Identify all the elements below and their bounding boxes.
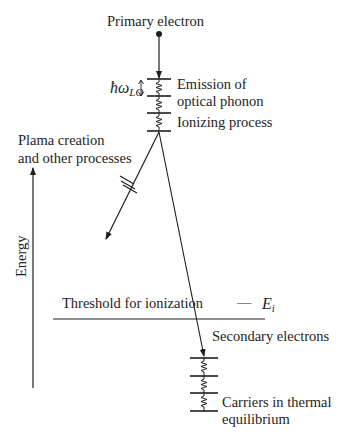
- energy-cascade-diagram: Primary electron ħωLO Emission of optica…: [0, 0, 352, 439]
- threshold-symbol-E: E: [261, 295, 272, 312]
- threshold-symbol: Ei: [261, 295, 275, 314]
- lower-zigzag-3: [201, 393, 207, 411]
- emission-label-line2: optical phonon: [177, 93, 264, 109]
- secondary-branch-arrow: [159, 132, 204, 356]
- threshold-symbol-subscript: i: [272, 302, 275, 314]
- phonon-zigzag-1: [156, 79, 162, 96]
- secondary-electrons-label: Secondary electrons: [212, 328, 330, 344]
- threshold-dash: —: [236, 294, 252, 310]
- phonon-zigzag-2: [156, 96, 162, 113]
- lower-energy-levels: [190, 358, 218, 411]
- phonon-energy-label: ħωLO: [110, 79, 143, 98]
- break-marks: [120, 176, 137, 193]
- plasma-branch-arrow: [106, 132, 159, 239]
- plasma-label-line1: Plama creation: [18, 132, 105, 148]
- upper-energy-levels: [147, 79, 171, 131]
- lower-zigzag-1: [201, 358, 207, 376]
- emission-label-line1: Emission of: [177, 76, 247, 92]
- lower-zigzag-2: [201, 376, 207, 393]
- carriers-label-line2: equilibrium: [222, 411, 290, 427]
- carriers-label-line1: Carriers in thermal: [222, 394, 332, 410]
- threshold-label: Threshold for ionization: [62, 295, 204, 311]
- ionizing-process-label: Ionizing process: [177, 114, 273, 130]
- phonon-energy-symbol: ħω: [110, 79, 129, 96]
- phonon-zigzag-3: [156, 113, 162, 131]
- plasma-label-line2: and other processes: [18, 150, 132, 166]
- primary-electron-label: Primary electron: [107, 13, 205, 29]
- energy-axis-label: Energy: [13, 235, 29, 277]
